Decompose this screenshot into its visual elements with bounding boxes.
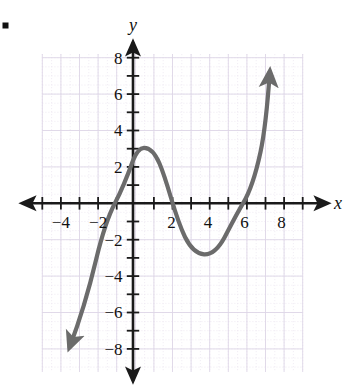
bullet-marker: [3, 23, 9, 29]
x-tick-label--2: −2: [89, 213, 107, 232]
cubic-curve: [70, 72, 270, 347]
x-tick-label-6: 6: [240, 213, 249, 232]
y-tick-label--6: −6: [104, 303, 122, 322]
y-tick-label-4: 4: [114, 121, 123, 140]
y-tick-label-8: 8: [114, 49, 123, 68]
y-tick-label-6: 6: [114, 85, 123, 104]
graph-figure: −4 −2 2 4 6 8 8 6 4 2 −2 −4 −6 −8 x y: [0, 0, 349, 389]
x-tick-label-2: 2: [167, 213, 176, 232]
x-tick-label-8: 8: [277, 213, 286, 232]
y-tick-label--2: −2: [104, 231, 122, 250]
y-axis-label: y: [127, 15, 137, 35]
x-tick-label--4: −4: [52, 213, 71, 232]
y-tick-label--4: −4: [104, 267, 123, 286]
y-tick-label--8: −8: [104, 340, 122, 359]
y-tick-label-2: 2: [114, 158, 123, 177]
coordinate-plane-svg: −4 −2 2 4 6 8 8 6 4 2 −2 −4 −6 −8 x y: [0, 0, 349, 389]
x-tick-label-4: 4: [204, 213, 213, 232]
x-axis-label: x: [333, 193, 342, 213]
